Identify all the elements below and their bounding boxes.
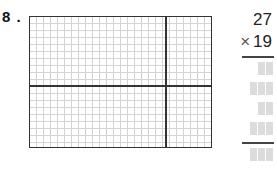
digit-box[interactable] bbox=[266, 82, 273, 95]
digit-box[interactable] bbox=[266, 62, 273, 75]
digit-box[interactable] bbox=[250, 122, 257, 135]
digit-box[interactable] bbox=[250, 82, 257, 95]
product-total[interactable] bbox=[250, 148, 273, 161]
area-model-grid[interactable] bbox=[29, 16, 212, 148]
sum-rule bbox=[242, 142, 274, 144]
digit-box[interactable] bbox=[258, 148, 265, 161]
digit-box[interactable] bbox=[258, 62, 265, 75]
problem-number: 8 . bbox=[2, 8, 22, 25]
digit-box[interactable] bbox=[258, 82, 265, 95]
digit-box[interactable] bbox=[258, 122, 265, 135]
digit-box[interactable] bbox=[250, 148, 257, 161]
digit-box[interactable] bbox=[266, 102, 273, 115]
multiplier-line: ×19 bbox=[240, 32, 272, 52]
partial-product-1[interactable] bbox=[258, 62, 273, 75]
multiplier: 19 bbox=[253, 32, 272, 51]
digit-box[interactable] bbox=[266, 148, 273, 161]
multiplication-rule bbox=[242, 56, 274, 58]
times-icon: × bbox=[240, 32, 250, 51]
grid-horizontal-divider bbox=[30, 85, 211, 87]
digit-box[interactable] bbox=[266, 122, 273, 135]
partial-product-3[interactable] bbox=[258, 102, 273, 115]
partial-product-4[interactable] bbox=[250, 122, 273, 135]
digit-box[interactable] bbox=[258, 102, 265, 115]
multiplicand: 27 bbox=[253, 10, 272, 30]
grid-vertical-divider bbox=[165, 17, 167, 147]
partial-product-2[interactable] bbox=[250, 82, 273, 95]
vertical-multiplication: 27 ×19 bbox=[230, 0, 277, 170]
